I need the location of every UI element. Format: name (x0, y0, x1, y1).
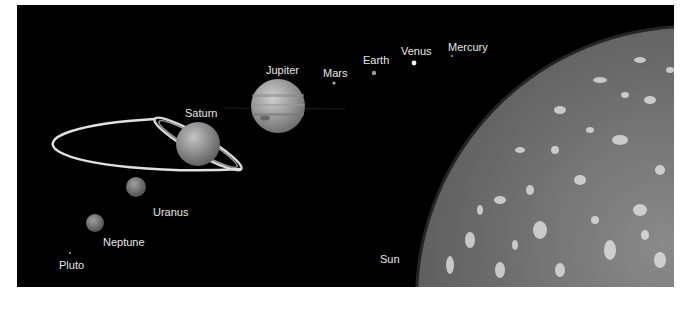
solar-system-diagram: Mercury Venus Earth Mars Jupiter Saturn … (17, 5, 674, 287)
uranus-planet (126, 177, 146, 197)
mars-planet (332, 81, 335, 84)
neptune-planet (86, 214, 104, 232)
label-earth: Earth (363, 55, 389, 66)
label-neptune: Neptune (103, 237, 145, 248)
label-pluto: Pluto (59, 260, 84, 271)
earth-planet (372, 71, 376, 75)
label-mercury: Mercury (448, 42, 488, 53)
label-sun: Sun (380, 254, 400, 265)
pluto-planet (69, 252, 71, 254)
mercury-planet (451, 55, 453, 57)
jupiter-planet (251, 79, 305, 133)
saturn-planet (53, 111, 246, 177)
label-mars: Mars (323, 68, 347, 79)
label-saturn: Saturn (185, 108, 217, 119)
venus-planet (412, 61, 417, 66)
sun (415, 25, 674, 287)
label-jupiter: Jupiter (266, 65, 299, 76)
label-uranus: Uranus (153, 207, 188, 218)
label-venus: Venus (401, 46, 432, 57)
